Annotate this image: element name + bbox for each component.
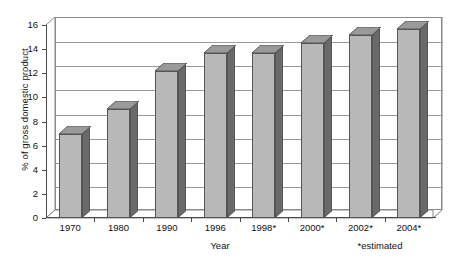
y-tick-label: 2 (20, 189, 38, 199)
bar-side-face (275, 46, 283, 218)
gridline (56, 42, 443, 43)
x-tick-mark (94, 218, 95, 222)
bar (301, 35, 324, 218)
x-tick-mark (385, 218, 386, 222)
x-tick-mark (336, 218, 337, 222)
gridline (56, 90, 443, 91)
x-tick-mark (240, 218, 241, 222)
bar-top-face (59, 126, 82, 134)
bar-side-face (227, 46, 235, 218)
bar-side-face (420, 22, 428, 218)
bar-top-face (155, 63, 178, 71)
bar-chart: % of gross domestic product 024681012141… (0, 0, 457, 265)
bar-side-face (130, 102, 138, 218)
plot-area (46, 17, 442, 218)
bar-top-face (252, 45, 275, 53)
bar (349, 27, 372, 218)
bar (397, 21, 420, 218)
bar-top-face (349, 27, 372, 35)
bar (252, 45, 275, 218)
y-tick-label: 8 (20, 117, 38, 127)
bar-side-face (178, 64, 186, 218)
bar-top-face (397, 21, 420, 29)
gridline (56, 66, 443, 67)
y-tick-label: 10 (20, 92, 38, 102)
bar-top-face (107, 101, 130, 109)
bar-front-face (252, 53, 275, 218)
bar-side-face (82, 127, 90, 218)
bar (155, 63, 178, 218)
y-axis-line (46, 25, 47, 218)
bar-front-face (349, 35, 372, 218)
bar-side-face (372, 28, 380, 218)
bar-front-face (301, 43, 324, 218)
x-tick-label: 2004* (379, 222, 439, 233)
x-tick-mark (191, 218, 192, 222)
bar-top-face (301, 35, 324, 43)
y-axis-title: % of gross domestic product (19, 10, 30, 210)
y-tick-label: 14 (20, 44, 38, 54)
bar-front-face (397, 29, 420, 218)
bar-front-face (204, 53, 227, 218)
bar (204, 45, 227, 218)
x-tick-mark (143, 218, 144, 222)
bar (107, 101, 130, 218)
y-tick-label: 16 (20, 20, 38, 30)
bar-front-face (59, 134, 82, 218)
y-tick-label: 6 (20, 141, 38, 151)
y-tick-label: 12 (20, 68, 38, 78)
y-tick-label: 0 (20, 213, 38, 223)
x-tick-mark (288, 218, 289, 222)
bar-top-face (204, 45, 227, 53)
x-axis-title: Year (180, 240, 260, 251)
bar (59, 126, 82, 218)
y-tick-label: 4 (20, 165, 38, 175)
x-axis-line (46, 217, 436, 218)
estimated-footnote: *estimated (330, 240, 430, 251)
bar-side-face (324, 36, 332, 218)
bar-front-face (107, 109, 130, 218)
bar-front-face (155, 71, 178, 218)
